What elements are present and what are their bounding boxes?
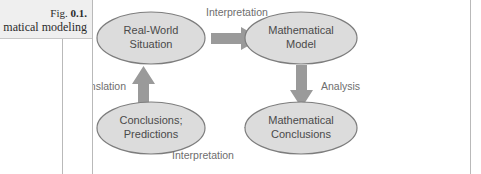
node-conclusions-predictions-line1: Conclusions; [120,114,183,126]
figure-caption-number-line: Fig. 0.1. [0,0,87,20]
node-mathematical-model-line2: Model [286,38,316,50]
node-conclusions-predictions: Conclusions; Predictions [97,102,205,154]
node-mathematical-conclusions: Mathematical Conclusions [245,102,357,154]
edge-label-interpretation-bottom: Interpretation [172,149,234,161]
page-right-rule [470,0,471,174]
node-mathematical-model-line1: Mathematical [268,24,333,36]
figure-caption-label: Fig. [50,7,67,19]
figure-page: Fig. 0.1. matical modeling [0,0,481,174]
inner-left-rule [62,39,63,174]
node-real-world-situation: Real-World Situation [97,12,205,64]
node-conclusions-predictions-line2: Predictions [124,128,179,140]
node-mathematical-conclusions-line1: Mathematical [268,114,333,126]
node-mathematical-model: Mathematical Model [245,12,357,64]
node-real-world-situation-line1: Real-World [124,24,179,36]
node-real-world-situation-line2: Situation [130,38,173,50]
figure-caption: Fig. 0.1. matical modeling [0,0,92,38]
figure-caption-number: 0.1. [71,7,88,19]
node-mathematical-conclusions-line2: Conclusions [271,128,331,140]
modeling-cycle-diagram: Real-World Situation Mathematical Model … [93,0,470,174]
figure-caption-text: matical modeling [0,20,87,34]
caption-bottom-rule [0,38,92,39]
edge-label-interpretation-top: Interpretation [206,6,268,18]
edge-label-analysis: Analysis [321,80,360,92]
edge-label-translation: Translation [93,80,126,92]
diagram-canvas: Real-World Situation Mathematical Model … [93,0,470,174]
